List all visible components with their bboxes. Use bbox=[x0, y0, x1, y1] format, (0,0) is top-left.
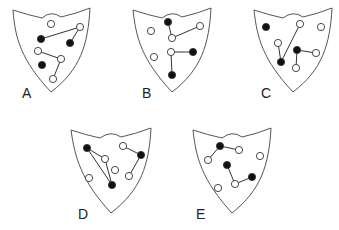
filled-dot bbox=[168, 71, 175, 78]
open-dot bbox=[76, 23, 83, 30]
shield-label: D bbox=[78, 206, 88, 222]
shield-c: C bbox=[254, 8, 332, 101]
filled-dot bbox=[164, 18, 171, 25]
filled-dot bbox=[189, 48, 196, 55]
open-dot bbox=[256, 152, 263, 159]
shield-b: B bbox=[133, 8, 211, 101]
shield-d: D bbox=[71, 128, 151, 222]
open-dot bbox=[101, 155, 108, 162]
open-dot bbox=[317, 23, 324, 30]
shield-label: B bbox=[142, 85, 151, 101]
open-dot bbox=[57, 55, 64, 62]
open-dot bbox=[167, 48, 174, 55]
open-dot bbox=[47, 20, 54, 27]
shield-label: C bbox=[261, 85, 271, 101]
filled-dot bbox=[216, 142, 223, 149]
filled-dot bbox=[108, 181, 115, 188]
filled-dot bbox=[38, 61, 45, 68]
open-dot bbox=[125, 172, 132, 179]
open-dot bbox=[196, 22, 203, 29]
filled-dot bbox=[248, 173, 255, 180]
shield-label: A bbox=[22, 85, 32, 101]
filled-dot bbox=[223, 161, 230, 168]
open-dot bbox=[204, 156, 211, 163]
open-dot bbox=[292, 64, 299, 71]
open-dot bbox=[85, 174, 92, 181]
open-dot bbox=[147, 27, 154, 34]
filled-dot bbox=[277, 58, 284, 65]
shield-e: E bbox=[193, 128, 271, 222]
open-dot bbox=[274, 39, 281, 46]
shield-diagram: ABCDE bbox=[0, 0, 339, 230]
shield-a: A bbox=[13, 8, 90, 101]
filled-dot bbox=[37, 35, 44, 42]
open-dot bbox=[111, 166, 118, 173]
open-dot bbox=[214, 184, 221, 191]
open-dot bbox=[312, 49, 319, 56]
filled-dot bbox=[137, 151, 144, 158]
filled-dot bbox=[293, 46, 300, 53]
open-dot bbox=[231, 180, 238, 187]
shield-outline bbox=[193, 128, 271, 213]
open-dot bbox=[235, 146, 242, 153]
open-dot bbox=[296, 20, 303, 27]
shield-label: E bbox=[196, 206, 205, 222]
open-dot bbox=[119, 142, 126, 149]
open-dot bbox=[49, 75, 56, 82]
filled-dot bbox=[66, 39, 73, 46]
open-dot bbox=[168, 34, 175, 41]
open-dot bbox=[150, 53, 157, 60]
filled-dot bbox=[83, 144, 90, 151]
open-dot bbox=[34, 47, 41, 54]
filled-dot bbox=[262, 23, 269, 30]
diagram-canvas: ABCDE bbox=[0, 0, 339, 230]
